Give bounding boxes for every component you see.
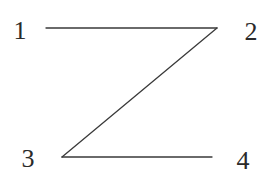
node-label-2: 2: [245, 17, 258, 46]
node-label-4: 4: [237, 146, 250, 175]
edges: [46, 28, 217, 157]
node-label-1: 1: [14, 16, 27, 45]
edge-2-to-3: [62, 28, 217, 157]
z-diagram: 1 2 3 4: [0, 0, 274, 177]
node-label-3: 3: [22, 144, 35, 173]
